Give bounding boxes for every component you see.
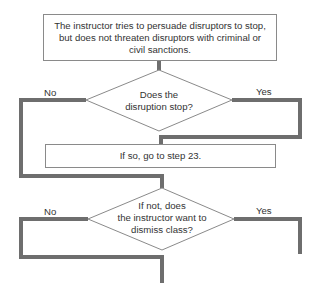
decision1-no-label: No — [44, 87, 56, 98]
step-box-text: The instructor tries to persuade disrupt… — [54, 20, 266, 56]
decision2-yes-label: Yes — [256, 205, 272, 216]
decision1-yes-label: Yes — [256, 86, 272, 97]
decision2-line3: dismiss class? — [102, 224, 222, 236]
result-box: If so, go to step 23. — [45, 144, 276, 168]
decision2-no-label: No — [44, 206, 56, 217]
decision1-line1: Does the — [109, 89, 209, 101]
decision2-text: If not, does the instructor want to dism… — [102, 200, 222, 236]
decision2-line1: If not, does — [102, 200, 222, 212]
connector-decision2-yes — [234, 219, 300, 254]
decision1-text: Does the disruption stop? — [109, 89, 209, 113]
decision2-line2: the instructor want to — [102, 212, 222, 224]
step-box: The instructor tries to persuade disrupt… — [43, 14, 277, 61]
decision1-line2: disruption stop? — [109, 101, 209, 113]
result-box-text: If so, go to step 23. — [120, 150, 202, 162]
